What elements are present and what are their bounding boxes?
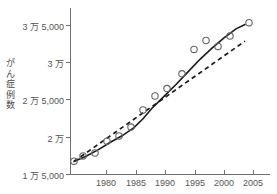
reference-dashed-line: [74, 41, 245, 161]
data-point: [215, 43, 221, 49]
y-axis-ticks: [66, 26, 71, 175]
data-point: [246, 20, 252, 26]
data-point-markers: [71, 20, 252, 165]
cancer-incidence-chart: が ん 症 例 数 3 万 5,000 3 万 2 万 5,000 2 万 1 …: [0, 0, 277, 194]
data-point: [164, 85, 170, 91]
data-point: [140, 107, 146, 113]
data-point: [203, 37, 209, 43]
data-point: [179, 71, 185, 77]
data-point: [191, 46, 197, 52]
fitted-curve-line: [74, 25, 245, 162]
data-point: [152, 93, 158, 99]
x-axis-ticks: [107, 170, 254, 175]
plot-area: [0, 0, 277, 194]
